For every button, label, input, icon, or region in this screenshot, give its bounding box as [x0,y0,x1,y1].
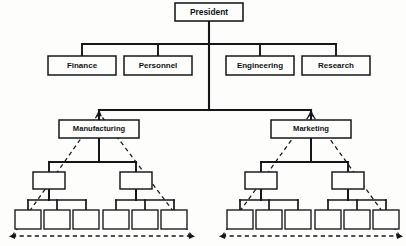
node-midlevel-1[interactable] [120,172,152,189]
node-division-marketing[interactable]: Marketing [271,120,351,138]
manufacturing-scope-triangle-base-left-arrowhead [9,233,16,239]
node-leaf-11-rect [373,210,399,229]
node-president[interactable]: President [175,3,243,21]
node-leaf-10-rect [344,210,370,229]
manufacturing-scope-triangle-base-right-arrowhead [188,233,195,239]
node-midlevel-0-rect [33,172,65,189]
node-leaf-0[interactable] [15,210,41,229]
node-midlevel-0[interactable] [33,172,65,189]
node-midlevel-2[interactable] [245,172,277,189]
node-staff-engineering[interactable]: Engineering [226,56,294,75]
node-midlevel-3[interactable] [332,172,364,189]
node-leaf-3[interactable] [103,210,129,229]
node-midlevel-1-rect [120,172,152,189]
node-leaf-1-rect [44,210,70,229]
node-staff-research-label: Research [318,61,354,70]
node-staff-finance[interactable]: Finance [48,56,116,75]
node-leaf-5[interactable] [161,210,187,229]
node-leaf-2[interactable] [73,210,99,229]
node-staff-engineering-label: Engineering [237,61,283,70]
node-leaf-7-rect [256,210,282,229]
node-staff-personnel[interactable]: Personnel [124,56,192,75]
node-leaf-2-rect [73,210,99,229]
node-leaf-4-rect [132,210,158,229]
node-leaf-3-rect [103,210,129,229]
node-staff-research[interactable]: Research [302,56,370,75]
node-midlevel-3-rect [332,172,364,189]
node-leaf-0-rect [15,210,41,229]
node-leaf-8[interactable] [285,210,311,229]
node-leaf-4[interactable] [132,210,158,229]
node-staff-personnel-label: Personnel [139,61,178,70]
node-box-layer: PresidentFinancePersonnelEngineeringRese… [15,3,399,229]
node-leaf-11[interactable] [373,210,399,229]
organization-chart: PresidentFinancePersonnelEngineeringRese… [0,0,406,246]
node-division-marketing-label: Marketing [293,124,329,133]
node-leaf-1[interactable] [44,210,70,229]
marketing-scope-triangle-base-left-arrowhead [219,233,226,239]
marketing-scope-triangle-base-right-arrowhead [396,233,403,239]
node-leaf-10[interactable] [344,210,370,229]
node-midlevel-2-rect [245,172,277,189]
node-staff-finance-label: Finance [67,61,98,70]
node-leaf-8-rect [285,210,311,229]
node-division-manufacturing[interactable]: Manufacturing [59,120,139,138]
node-president-label: President [190,7,228,17]
node-leaf-6[interactable] [227,210,253,229]
node-leaf-5-rect [161,210,187,229]
node-leaf-9[interactable] [315,210,341,229]
node-leaf-6-rect [227,210,253,229]
node-division-manufacturing-label: Manufacturing [73,124,126,133]
node-leaf-9-rect [315,210,341,229]
node-leaf-7[interactable] [256,210,282,229]
organization-chart-canvas: PresidentFinancePersonnelEngineeringRese… [0,0,406,246]
